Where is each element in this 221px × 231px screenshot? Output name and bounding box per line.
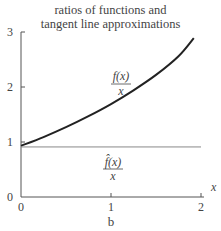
label-fhat-over-x: f̂(x) x (103, 154, 123, 183)
y-tick-label: 1 (7, 135, 13, 149)
chart: ratios of functions and tangent line app… (0, 0, 221, 231)
x-tick-label: 1 (108, 200, 114, 214)
y-tick-label: 2 (7, 80, 13, 94)
x-axis-label: x (210, 180, 217, 194)
label-f-denominator: x (117, 84, 124, 98)
label-f-numerator: f(x) (113, 69, 130, 83)
series-f-over-x (21, 38, 194, 146)
plot-area: 0123 012 x f(x) x f̂(x) x b (0, 0, 221, 231)
x-tick-label: 0 (18, 200, 24, 214)
y-tick-label: 3 (7, 25, 13, 39)
y-ticks: 0123 (7, 25, 25, 204)
x-tick-label: 2 (198, 200, 204, 214)
label-fhat-denominator: x (109, 169, 116, 183)
chart-caption: b (108, 214, 115, 229)
y-tick-label: 0 (7, 190, 13, 204)
x-ticks: 012 (18, 193, 204, 214)
label-fhat-numerator: f̂(x) (105, 154, 122, 169)
